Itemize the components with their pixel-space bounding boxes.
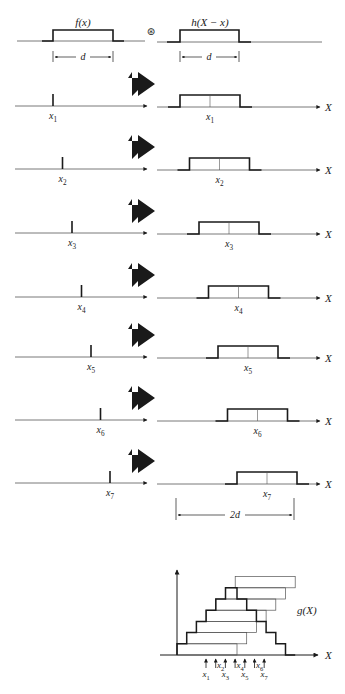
transform-arrow-icon	[128, 263, 155, 287]
transform-arrow-icon	[128, 323, 155, 347]
header-row: f(x) ⊛ h(X − x) d d	[17, 16, 322, 62]
impulse-label: x4	[76, 301, 85, 315]
output-axis-label: X	[324, 101, 333, 113]
center-label: x1	[205, 111, 214, 125]
h-pulse	[167, 30, 251, 42]
h-label: h(X − x)	[191, 16, 229, 29]
stacked-box	[216, 599, 276, 610]
impulse-label: x3	[67, 237, 76, 251]
row-2: x2x2X	[15, 135, 333, 188]
h-width-dimension: d	[180, 51, 239, 62]
output-axis-label: X	[324, 228, 333, 240]
tick-label: x1	[201, 669, 209, 681]
transform-arrow-icon	[128, 72, 155, 96]
result-axis-label: X	[324, 649, 333, 661]
stacked-box	[226, 588, 286, 599]
result-staircase: X g(X) x1x2x3x4x5x6x7	[160, 570, 333, 681]
span-dimension: 2d	[176, 498, 294, 520]
center-label: x4	[233, 302, 242, 316]
convolution-diagram: f(x) ⊛ h(X − x) d d x1x1Xx2x2Xx3x3Xx4x4X…	[0, 0, 345, 694]
center-label: x5	[243, 362, 252, 376]
stacked-box	[235, 577, 295, 588]
f-label: f(x)	[75, 16, 91, 29]
row-6: x6x6X	[15, 386, 333, 439]
output-axis-label: X	[324, 164, 333, 176]
row-7: x7x7X	[15, 449, 333, 502]
impulse-label: x1	[48, 110, 57, 124]
row-4: x4x4X	[15, 263, 333, 316]
output-axis-label: X	[324, 292, 333, 304]
stacked-box	[196, 621, 256, 632]
center-label: x2	[214, 174, 223, 188]
stacked-box	[177, 644, 237, 655]
shifted-rows: x1x1Xx2x2Xx3x3Xx4x4Xx5x5Xx6x6Xx7x7X	[15, 72, 333, 502]
center-label: x3	[224, 238, 233, 252]
impulse-label: x5	[86, 361, 95, 375]
f-width-label: d	[81, 51, 87, 62]
stacked-box	[187, 633, 247, 644]
row-1: x1x1X	[15, 72, 333, 125]
tick-label: x3	[221, 669, 229, 681]
h-width-label: d	[207, 51, 213, 62]
center-label: x7	[262, 488, 271, 502]
transform-arrow-icon	[128, 449, 155, 473]
tick-label: x5	[240, 669, 248, 681]
transform-arrow-icon	[128, 199, 155, 223]
result-g-label: g(X)	[297, 604, 317, 617]
output-axis-label: X	[324, 352, 333, 364]
transform-arrow-icon	[128, 386, 155, 410]
impulse-label: x6	[95, 424, 104, 438]
impulse-label: x2	[57, 173, 66, 187]
output-axis-label: X	[324, 478, 333, 490]
center-label: x6	[252, 425, 261, 439]
row-3: x3x3X	[15, 199, 333, 252]
transform-arrow-icon	[128, 135, 155, 159]
f-pulse	[42, 30, 124, 41]
convolution-symbol: ⊛	[147, 26, 155, 37]
span-label: 2d	[230, 509, 241, 520]
f-width-dimension: d	[53, 51, 113, 62]
output-axis-label: X	[324, 415, 333, 427]
impulse-label: x7	[105, 487, 114, 501]
tick-label: x7	[260, 669, 269, 681]
row-5: x5x5X	[15, 323, 333, 376]
